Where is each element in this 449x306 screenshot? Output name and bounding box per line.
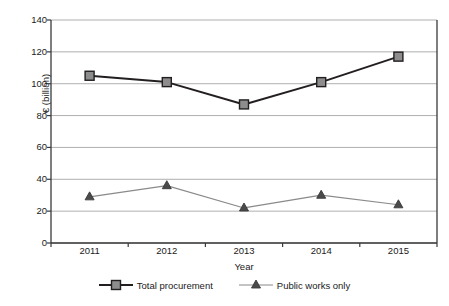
data-point-marker	[240, 100, 249, 109]
series-line	[90, 57, 399, 105]
x-tick-label: 2013	[205, 246, 282, 262]
data-point-marker	[394, 52, 403, 61]
legend-triangle-marker-icon	[239, 278, 273, 292]
x-axis-tick-labels: 20112012201320142015	[51, 246, 437, 262]
chart-legend: Total procurementPublic works only	[0, 278, 449, 292]
x-axis-title: Year	[51, 261, 437, 272]
x-tick-label: 2015	[360, 246, 437, 262]
data-point-marker	[317, 190, 326, 198]
series-2	[85, 181, 403, 211]
chart-container: € (billion) 020406080100120140 201120122…	[0, 0, 449, 306]
legend-item[interactable]: Public works only	[239, 278, 350, 292]
series-1	[85, 52, 403, 109]
legend-square-marker-icon	[99, 278, 133, 292]
legend-item[interactable]: Total procurement	[99, 278, 213, 292]
data-point-marker	[162, 181, 171, 189]
data-point-marker	[85, 71, 94, 80]
data-point-marker	[162, 78, 171, 87]
x-tick-label: 2012	[128, 246, 205, 262]
legend-label: Public works only	[277, 280, 350, 291]
data-point-marker	[317, 78, 326, 87]
legend-label: Total procurement	[137, 280, 213, 291]
x-tick-label: 2014	[283, 246, 360, 262]
x-tick-label: 2011	[51, 246, 128, 262]
axes	[47, 20, 437, 247]
